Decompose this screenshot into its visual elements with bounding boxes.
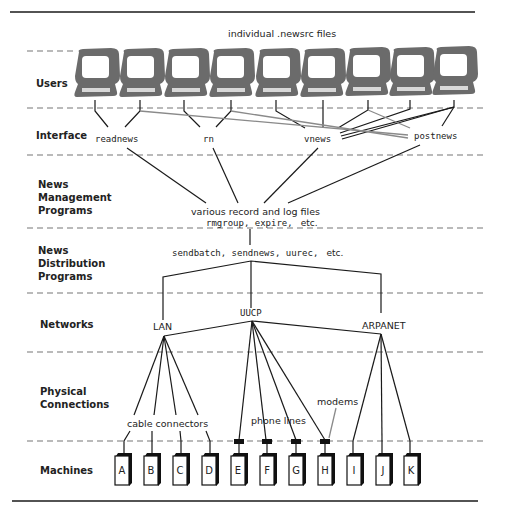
machine-J: J bbox=[376, 453, 393, 486]
modem-icon bbox=[320, 439, 330, 444]
distribution-programs-etc: etc. bbox=[326, 248, 343, 258]
distribution-network-links bbox=[163, 261, 381, 320]
newsrc-annotation: individual .newsrc files bbox=[228, 28, 336, 39]
svg-text:F: F bbox=[264, 465, 270, 476]
machines: A B C D E F G H I J K bbox=[115, 453, 421, 486]
network-interconnect bbox=[164, 321, 381, 336]
machine-I: I bbox=[347, 453, 364, 486]
layer-label-machines: Machines bbox=[40, 465, 93, 476]
uucp-links bbox=[239, 321, 325, 455]
svg-text:D: D bbox=[205, 465, 213, 476]
machine-K: K bbox=[404, 453, 421, 486]
machine-H: H bbox=[318, 453, 335, 486]
terminal-icon bbox=[119, 48, 165, 97]
machine-F: F bbox=[260, 453, 277, 486]
news-architecture-diagram: Users Interface News Management Programs… bbox=[0, 0, 505, 515]
interface-vnews: vnews bbox=[304, 134, 331, 144]
modem-icon bbox=[291, 439, 301, 444]
layer-label-news-management-1: News bbox=[38, 179, 68, 190]
machine-C: C bbox=[173, 453, 190, 486]
interface-rn: rn bbox=[203, 134, 214, 144]
svg-text:H: H bbox=[321, 465, 329, 476]
svg-text:A: A bbox=[119, 465, 126, 476]
network-lan: LAN bbox=[153, 321, 172, 332]
layer-label-news-distribution-1: News bbox=[38, 245, 68, 256]
user-interface-links bbox=[95, 100, 454, 139]
machine-D: D bbox=[202, 453, 219, 486]
svg-text:K: K bbox=[408, 465, 415, 476]
layer-label-networks: Networks bbox=[40, 319, 94, 330]
machine-A: A bbox=[115, 453, 132, 486]
terminal-icon bbox=[432, 46, 478, 95]
management-programs-mono: rmgroup, expire, bbox=[206, 218, 293, 228]
terminal-icon bbox=[389, 47, 435, 96]
terminal-icon bbox=[74, 48, 120, 97]
lan-links bbox=[124, 336, 210, 455]
svg-text:G: G bbox=[292, 465, 300, 476]
management-files-label: various record and log files bbox=[191, 206, 320, 217]
svg-text:C: C bbox=[177, 465, 184, 476]
layer-label-users: Users bbox=[36, 78, 68, 89]
terminal-icon bbox=[345, 47, 391, 96]
network-arpanet: ARPANET bbox=[362, 320, 406, 331]
cable-connectors-label: cable connectors bbox=[127, 418, 208, 429]
terminal-icon bbox=[209, 48, 255, 97]
svg-text:E: E bbox=[235, 465, 241, 476]
user-terminals bbox=[74, 46, 478, 97]
distribution-programs-label: sendbatch, sendnews, uurec, etc. bbox=[172, 241, 343, 260]
modem-icon bbox=[262, 439, 272, 444]
interface-management-links bbox=[127, 145, 420, 203]
network-uucp: UUCP bbox=[240, 308, 262, 318]
machine-G: G bbox=[289, 453, 306, 486]
interface-postnews: postnews bbox=[414, 131, 457, 141]
terminal-icon bbox=[255, 48, 301, 97]
modems-pointer bbox=[329, 408, 336, 438]
svg-text:I: I bbox=[353, 465, 356, 476]
interface-readnews: readnews bbox=[95, 134, 138, 144]
layer-label-news-distribution-3: Programs bbox=[38, 271, 92, 282]
distribution-programs-mono: sendbatch, sendnews, uurec, bbox=[172, 248, 318, 258]
terminal-icon bbox=[300, 48, 346, 97]
layer-label-news-distribution-2: Distribution bbox=[38, 258, 105, 269]
machine-B: B bbox=[144, 453, 161, 486]
layer-label-news-management-3: Programs bbox=[38, 205, 92, 216]
layer-label-interface: Interface bbox=[36, 130, 87, 141]
terminal-icon bbox=[164, 48, 210, 97]
management-programs-etc: etc. bbox=[301, 218, 318, 228]
layer-label-physical-2: Connections bbox=[40, 399, 109, 410]
layer-label-physical-1: Physical bbox=[40, 386, 86, 397]
svg-text:B: B bbox=[148, 465, 155, 476]
modem-icon bbox=[234, 439, 244, 444]
layer-separators bbox=[27, 51, 487, 441]
svg-text:J: J bbox=[381, 465, 385, 476]
machine-E: E bbox=[231, 453, 248, 486]
modems-label: modems bbox=[317, 396, 358, 407]
phone-lines-label: phone lines bbox=[251, 415, 306, 426]
layer-label-news-management-2: Management bbox=[38, 192, 112, 203]
